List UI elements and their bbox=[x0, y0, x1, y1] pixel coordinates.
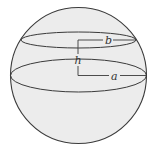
label-h: h bbox=[75, 54, 82, 67]
label-a: a bbox=[111, 70, 118, 83]
label-b: b bbox=[105, 34, 112, 47]
sphere-svg: b h a bbox=[0, 0, 157, 149]
sphere-diagram: b h a bbox=[0, 0, 157, 149]
